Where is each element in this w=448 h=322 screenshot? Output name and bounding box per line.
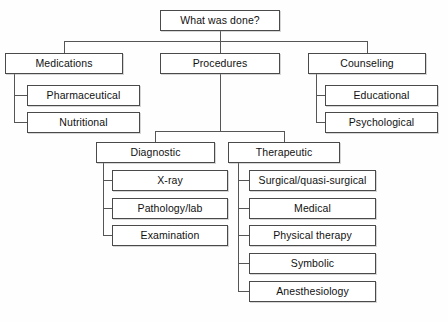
edge-procedures-stem bbox=[220, 74, 221, 131]
edge-therapeutic-spine bbox=[238, 163, 239, 292]
node-surgical-quasi-surgical[interactable]: Surgical/quasi-surgical bbox=[249, 170, 376, 191]
diagram-canvas: What was done? Medications Pharmaceutica… bbox=[0, 0, 448, 322]
edge-level2-bus bbox=[155, 131, 284, 132]
node-label: Nutritional bbox=[56, 117, 110, 128]
edge-therapeutic-to-symbolic bbox=[238, 263, 249, 264]
node-label: Medications bbox=[32, 58, 95, 69]
edge-bus-to-procedures bbox=[220, 41, 221, 53]
node-label: Procedures bbox=[190, 58, 251, 69]
node-educational[interactable]: Educational bbox=[325, 85, 438, 106]
node-label: Pharmaceutical bbox=[44, 90, 124, 101]
edge-bus-to-diagnostic bbox=[155, 131, 156, 142]
node-label: Psychological bbox=[346, 117, 418, 128]
edge-medications-to-nutritional bbox=[14, 122, 27, 123]
edge-diagnostic-spine bbox=[103, 163, 104, 236]
node-medical[interactable]: Medical bbox=[249, 198, 376, 219]
edge-therapeutic-to-medical bbox=[238, 208, 249, 209]
node-examination[interactable]: Examination bbox=[112, 225, 228, 246]
node-medications[interactable]: Medications bbox=[5, 53, 123, 74]
node-label: Examination bbox=[138, 230, 203, 241]
edge-diagnostic-to-xray bbox=[103, 180, 112, 181]
node-pathology-lab[interactable]: Pathology/lab bbox=[112, 198, 228, 219]
node-label: What was done? bbox=[177, 15, 263, 26]
node-counseling[interactable]: Counseling bbox=[308, 53, 426, 74]
edge-root-stem bbox=[220, 31, 221, 41]
edge-counseling-to-educational bbox=[316, 95, 325, 96]
node-label: X-ray bbox=[154, 175, 186, 186]
edge-bus-to-medications bbox=[64, 41, 65, 53]
edge-diagnostic-to-pathology bbox=[103, 208, 112, 209]
edge-counseling-to-psychological bbox=[316, 122, 325, 123]
node-label: Medical bbox=[291, 203, 334, 214]
edge-bus-to-counseling bbox=[367, 41, 368, 53]
node-symbolic[interactable]: Symbolic bbox=[249, 253, 376, 274]
node-label: Diagnostic bbox=[127, 147, 183, 158]
node-physical-therapy[interactable]: Physical therapy bbox=[249, 225, 376, 246]
node-psychological[interactable]: Psychological bbox=[325, 112, 438, 133]
node-xray[interactable]: X-ray bbox=[112, 170, 228, 191]
node-nutritional[interactable]: Nutritional bbox=[27, 112, 140, 133]
edge-therapeutic-to-physical-therapy bbox=[238, 235, 249, 236]
edge-bus-to-therapeutic bbox=[284, 131, 285, 142]
node-root-what-was-done[interactable]: What was done? bbox=[160, 10, 280, 31]
node-label: Educational bbox=[351, 90, 413, 101]
node-therapeutic[interactable]: Therapeutic bbox=[228, 142, 340, 163]
node-procedures[interactable]: Procedures bbox=[160, 53, 280, 74]
node-label: Counseling bbox=[337, 58, 397, 69]
edge-level1-bus bbox=[64, 41, 367, 42]
edge-counseling-spine bbox=[316, 74, 317, 123]
edge-medications-to-pharmaceutical bbox=[14, 95, 27, 96]
edge-therapeutic-to-anesthesiology bbox=[238, 291, 249, 292]
node-label: Pathology/lab bbox=[135, 203, 206, 214]
node-label: Therapeutic bbox=[253, 147, 316, 158]
node-label: Anesthesiology bbox=[273, 286, 352, 297]
node-pharmaceutical[interactable]: Pharmaceutical bbox=[27, 85, 140, 106]
node-anesthesiology[interactable]: Anesthesiology bbox=[249, 281, 376, 302]
edge-diagnostic-to-examination bbox=[103, 235, 112, 236]
edge-medications-spine bbox=[14, 74, 15, 123]
node-label: Symbolic bbox=[288, 258, 337, 269]
node-label: Physical therapy bbox=[270, 230, 355, 241]
edge-therapeutic-to-surgical bbox=[238, 180, 249, 181]
node-label: Surgical/quasi-surgical bbox=[256, 175, 370, 186]
node-diagnostic[interactable]: Diagnostic bbox=[96, 142, 215, 163]
